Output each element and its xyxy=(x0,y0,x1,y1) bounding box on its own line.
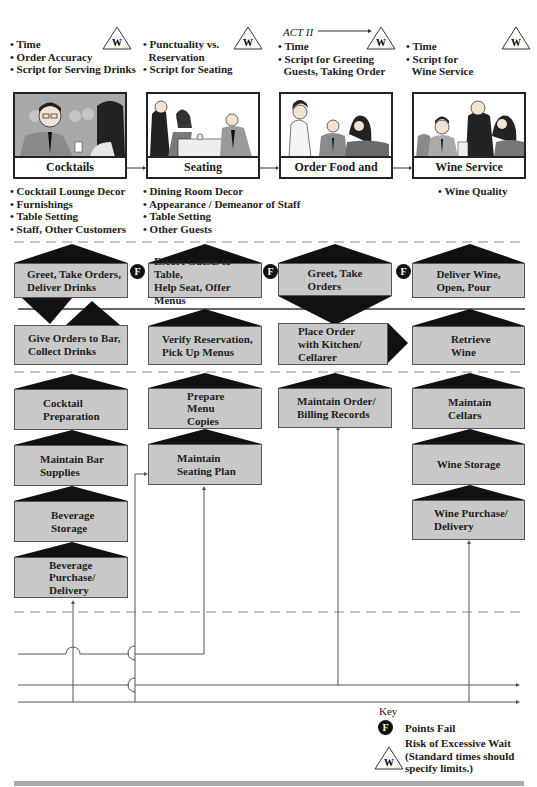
fail-point-icon: F xyxy=(396,264,411,279)
support-beverage-purchase: BeveragePurchase/Delivery xyxy=(14,557,128,598)
support-maintain-cellars: MaintainCellars xyxy=(412,388,525,429)
support-maintain-bar-supplies: Maintain BarSupplies xyxy=(14,445,128,486)
onstage-escort-guests: Escort Guests to Table,Help Seat, Offer … xyxy=(148,263,262,298)
onstage-deliver-wine: Deliver Wine,Open, Pour xyxy=(412,263,525,298)
backstage-retrieve-wine: RetrieveWine xyxy=(412,326,525,365)
support-prepare-menu-copies: PrepareMenuCopies xyxy=(148,388,262,429)
key-fail-label: Points Fail xyxy=(405,722,455,735)
fail-point-icon: F xyxy=(263,264,278,279)
footer-bar xyxy=(14,781,524,786)
fail-point-icon: F xyxy=(130,264,145,279)
svg-text:W: W xyxy=(384,757,394,768)
key-wait-label: Risk of Excessive Wait (Standard times s… xyxy=(405,737,514,775)
support-maintain-order-billing: Maintain Order/Billing Records xyxy=(278,388,392,428)
key-title: Key xyxy=(379,705,397,718)
support-wine-storage: Wine Storage xyxy=(412,444,525,485)
support-maintain-seating-plan: MaintainSeating Plan xyxy=(148,444,262,485)
key-fail-icon: F xyxy=(378,720,393,735)
onstage-greet-deliver-drinks: Greet, Take Orders,Deliver Drinks xyxy=(14,263,128,298)
support-cocktail-preparation: CocktailPreparation xyxy=(14,389,128,430)
backstage-place-order: Place Orderwith Kitchen/Cellarer xyxy=(278,323,388,365)
key-wait-icon: W xyxy=(374,746,404,770)
backstage-give-orders-to-bar: Give Orders to Bar,Collect Drinks xyxy=(14,325,128,365)
backstage-verify-reservation: Verify Reservation,Pick Up Menus xyxy=(148,326,262,365)
support-beverage-storage: BeverageStorage xyxy=(14,501,128,542)
support-wine-purchase: Wine Purchase/Delivery xyxy=(412,500,525,540)
onstage-greet-take-orders: Greet, TakeOrders xyxy=(278,263,392,296)
